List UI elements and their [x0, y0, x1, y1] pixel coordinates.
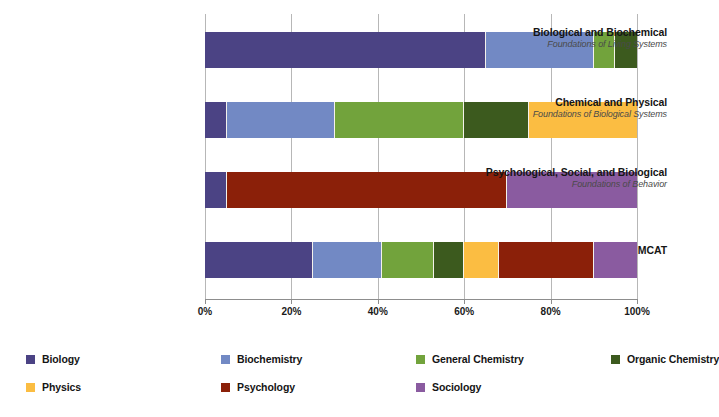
category-subtitle: Foundations of Biological Systems: [467, 109, 667, 119]
bar-segment-biochemistry: [227, 102, 335, 138]
bar-segment-biology: [205, 242, 313, 278]
bar-segment-organic-chemistry: [434, 242, 464, 278]
x-axis-tick: [464, 299, 465, 304]
legend-swatch-biology: [26, 355, 35, 364]
category-title: Chemical and Physical: [467, 96, 667, 108]
legend-item: General Chemistry: [416, 352, 524, 366]
legend-swatch-psychology: [221, 383, 230, 392]
legend-item: Psychology: [221, 380, 295, 394]
category-label: MCAT: [467, 244, 667, 256]
x-axis-tick: [205, 299, 206, 304]
x-axis-tick-label: 0%: [181, 306, 229, 317]
category-label: Psychological, Social, and BiologicalFou…: [467, 166, 667, 189]
category-title: Biological and Biochemical: [467, 26, 667, 38]
gridline-100: [637, 14, 638, 299]
legend-swatch-sociology: [416, 383, 425, 392]
legend-item: Organic Chemistry: [611, 352, 719, 366]
category-title: Psychological, Social, and Biological: [467, 166, 667, 178]
x-axis-tick: [637, 299, 638, 304]
bar-segment-general-chemistry: [335, 102, 465, 138]
legend-swatch-physics: [26, 383, 35, 392]
chart-legend: BiologyBiochemistryGeneral ChemistryOrga…: [26, 352, 646, 408]
x-axis-tick-label: 20%: [267, 306, 315, 317]
legend-item: Biochemistry: [221, 352, 302, 366]
bar-segment-general-chemistry: [382, 242, 434, 278]
x-axis-tick: [551, 299, 552, 304]
legend-swatch-biochemistry: [221, 355, 230, 364]
x-axis-tick-label: 100%: [613, 306, 661, 317]
x-axis-line: [205, 299, 637, 300]
legend-label: General Chemistry: [432, 353, 524, 365]
category-title: MCAT: [467, 244, 667, 256]
legend-swatch-organic-chemistry: [611, 355, 620, 364]
category-label: Biological and BiochemicalFoundations of…: [467, 26, 667, 49]
legend-label: Physics: [42, 381, 81, 393]
legend-label: Biology: [42, 353, 80, 365]
bar-segment-biology: [205, 32, 486, 68]
category-subtitle: Foundations of Behavior: [467, 179, 667, 189]
x-axis-tick-label: 60%: [440, 306, 488, 317]
x-axis-tick-label: 80%: [527, 306, 575, 317]
legend-item: Physics: [26, 380, 81, 394]
legend-item: Sociology: [416, 380, 481, 394]
x-axis-tick: [378, 299, 379, 304]
plot-area: [205, 14, 637, 299]
x-axis-tick-label: 40%: [354, 306, 402, 317]
legend-label: Organic Chemistry: [627, 353, 719, 365]
legend-label: Psychology: [237, 381, 295, 393]
bar-segment-biology: [205, 102, 227, 138]
legend-label: Biochemistry: [237, 353, 302, 365]
bar-segment-biochemistry: [313, 242, 382, 278]
bar-segment-biology: [205, 172, 227, 208]
bar-segment-psychology: [227, 172, 508, 208]
x-axis-tick: [291, 299, 292, 304]
category-subtitle: Foundations of Living Systems: [467, 39, 667, 49]
legend-swatch-general-chemistry: [416, 355, 425, 364]
legend-item: Biology: [26, 352, 80, 366]
legend-label: Sociology: [432, 381, 481, 393]
category-label: Chemical and PhysicalFoundations of Biol…: [467, 96, 667, 119]
